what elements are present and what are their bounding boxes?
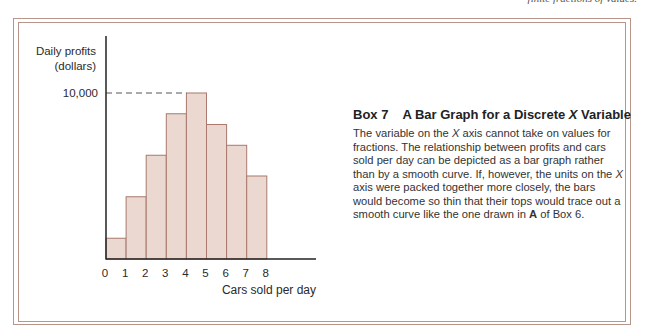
- y-axis-label: Daily profits(dollars): [36, 45, 96, 72]
- x-tick-label: 0: [102, 267, 108, 279]
- y-label-line: Daily profits: [36, 45, 96, 57]
- x-tick-label: 7: [242, 267, 248, 279]
- bar: [207, 125, 227, 259]
- bar: [106, 238, 126, 259]
- box-title-suffix: Variable: [577, 107, 630, 122]
- x-tick-label: 6: [222, 267, 228, 279]
- x-axis-label: Cars sold per day: [222, 283, 316, 297]
- box-title-prefix: A Bar Graph for a Discrete: [402, 107, 568, 122]
- x-tick-labels: 012345678: [102, 267, 269, 279]
- bar: [186, 93, 206, 259]
- bar: [126, 197, 146, 259]
- x-tick-label: 4: [182, 267, 189, 279]
- bar: [166, 114, 186, 259]
- bar: [247, 176, 267, 259]
- box-title: Box 7A Bar Graph for a Discrete X Variab…: [353, 107, 643, 122]
- x-tick-label: 1: [122, 267, 128, 279]
- y-label-line: (dollars): [54, 60, 96, 72]
- bar: [227, 145, 247, 259]
- y-tick-labels: 10,000: [63, 87, 98, 99]
- x-tick-label: 5: [202, 267, 208, 279]
- x-tick-label: 8: [263, 267, 269, 279]
- bars: [106, 93, 267, 259]
- x-tick-label: 2: [142, 267, 148, 279]
- y-tick-label: 10,000: [63, 87, 98, 99]
- box-7-caption: Box 7A Bar Graph for a Discrete X Variab…: [353, 107, 643, 222]
- box-number: Box 7: [353, 107, 388, 122]
- bar: [146, 155, 166, 259]
- x-tick-label: 3: [162, 267, 168, 279]
- box-body-text: The variable on the X axis cannot take o…: [353, 127, 623, 222]
